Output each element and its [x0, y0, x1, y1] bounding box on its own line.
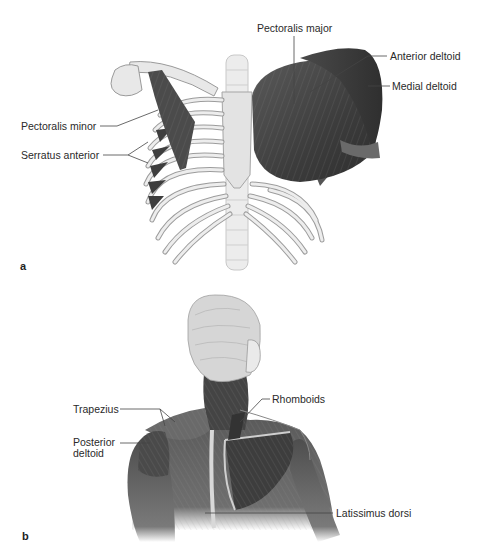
label-medial-deltoid: Medial deltoid	[392, 81, 457, 92]
label-latissimus-dorsi: Latissimus dorsi	[336, 508, 411, 519]
head	[188, 295, 260, 382]
panel-letter-a: a	[20, 260, 26, 272]
panel-b-posterior-back: Trapezius Rhomboids Posterior deltoid La…	[0, 280, 483, 560]
sternum	[222, 92, 252, 188]
ear	[246, 340, 260, 373]
panel-a-anterior-chest: Pectoralis major Anterior deltoid Medial…	[0, 0, 483, 280]
label-anterior-deltoid: Anterior deltoid	[390, 51, 461, 62]
anterior-chest-illustration	[0, 0, 483, 280]
label-pectoralis-minor: Pectoralis minor	[21, 121, 96, 132]
label-posterior-deltoid-line2: deltoid	[73, 448, 104, 459]
label-pectoralis-major: Pectoralis major	[257, 23, 332, 34]
panel-letter-b: b	[22, 530, 29, 542]
label-serratus-anterior: Serratus anterior	[21, 150, 99, 161]
label-trapezius: Trapezius	[73, 404, 119, 415]
label-rhomboids: Rhomboids	[272, 394, 325, 405]
